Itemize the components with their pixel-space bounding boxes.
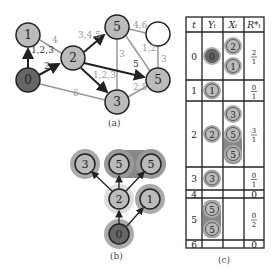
svg-text:4: 4 [191, 190, 197, 200]
figure-canvas: 102553 1,2,3423,4,51,2,36534,61,232,5 02… [0, 0, 277, 276]
svg-text:2: 2 [191, 130, 197, 140]
graph-node: 3 [105, 90, 129, 114]
svg-text:0: 0 [24, 73, 32, 87]
svg-text:1: 1 [209, 86, 215, 96]
svg-text:0: 0 [252, 172, 256, 180]
svg-text:0: 0 [252, 84, 256, 92]
graph-node: 0 [109, 224, 129, 244]
graph-b-nodes: 021355 [75, 154, 161, 244]
graph-node: 0 [16, 68, 40, 92]
graph-node: 3 [75, 154, 95, 174]
svg-text:0: 0 [191, 52, 197, 62]
svg-text:5: 5 [209, 225, 215, 235]
svg-text:1: 1 [147, 193, 154, 206]
svg-text:3: 3 [191, 174, 197, 184]
svg-text:5: 5 [116, 158, 123, 171]
edge-label: 4 [52, 35, 58, 45]
svg-text:1: 1 [24, 28, 32, 42]
svg-text:5: 5 [230, 130, 236, 140]
edge-label: 4,6 [133, 20, 148, 30]
svg-text:1: 1 [252, 136, 256, 144]
edge-label: 6 [73, 88, 79, 98]
caption-b: (b) [110, 251, 123, 261]
edge-label: 1,2,3 [93, 70, 116, 80]
graph-node: 2 [61, 46, 85, 70]
edge-label: 2 [44, 61, 50, 71]
svg-text:1: 1 [252, 181, 256, 189]
svg-text:3: 3 [230, 110, 236, 120]
svg-text:1: 1 [252, 58, 256, 66]
svg-text:2: 2 [252, 221, 256, 229]
graph-node: 5 [146, 68, 170, 92]
svg-text:0: 0 [116, 228, 123, 241]
svg-text:2: 2 [116, 193, 123, 206]
svg-text:0: 0 [251, 190, 257, 200]
svg-text:5: 5 [113, 20, 121, 34]
svg-text:5: 5 [154, 73, 162, 87]
edge-label: 1,2 [142, 43, 156, 53]
graph-node: 5 [109, 154, 129, 174]
svg-text:5: 5 [209, 205, 215, 215]
svg-text:2: 2 [69, 51, 77, 65]
svg-text:2: 2 [252, 49, 256, 57]
graph-node: 2 [109, 189, 129, 209]
table-header: t [192, 20, 196, 30]
edge-label: 3 [119, 49, 125, 59]
graph-node: 1 [16, 23, 40, 47]
svg-text:0: 0 [252, 212, 256, 220]
caption-a: (a) [108, 118, 120, 128]
edge-label: 3,4,5 [78, 30, 101, 40]
edge-label: 5 [133, 59, 139, 69]
svg-text:5: 5 [230, 150, 236, 160]
svg-text:1: 1 [191, 86, 197, 96]
graph-node: 5 [105, 15, 129, 39]
svg-text:1: 1 [252, 93, 256, 101]
svg-text:1: 1 [230, 62, 236, 72]
svg-text:3: 3 [252, 127, 256, 135]
table-header: Xₜ [228, 20, 238, 30]
edge-label: 2,5 [133, 82, 148, 92]
svg-text:3: 3 [82, 158, 89, 171]
svg-text:0: 0 [209, 52, 215, 62]
table-header: Yₜ [208, 20, 217, 30]
svg-text:3: 3 [113, 95, 121, 109]
svg-text:5: 5 [191, 215, 197, 225]
svg-text:0: 0 [251, 240, 257, 250]
graph-node: 1 [140, 189, 160, 209]
graph-node: 5 [141, 154, 161, 174]
svg-text:6: 6 [191, 240, 197, 250]
svg-text:2: 2 [230, 42, 236, 52]
svg-text:5: 5 [148, 158, 155, 171]
caption-c: (c) [218, 255, 230, 265]
svg-text:2: 2 [209, 130, 215, 140]
svg-text:3: 3 [209, 174, 215, 184]
edge-label: 1,2,3 [31, 45, 54, 55]
edge-label: 3 [161, 54, 167, 64]
table-header: R*ₜ [246, 20, 261, 30]
